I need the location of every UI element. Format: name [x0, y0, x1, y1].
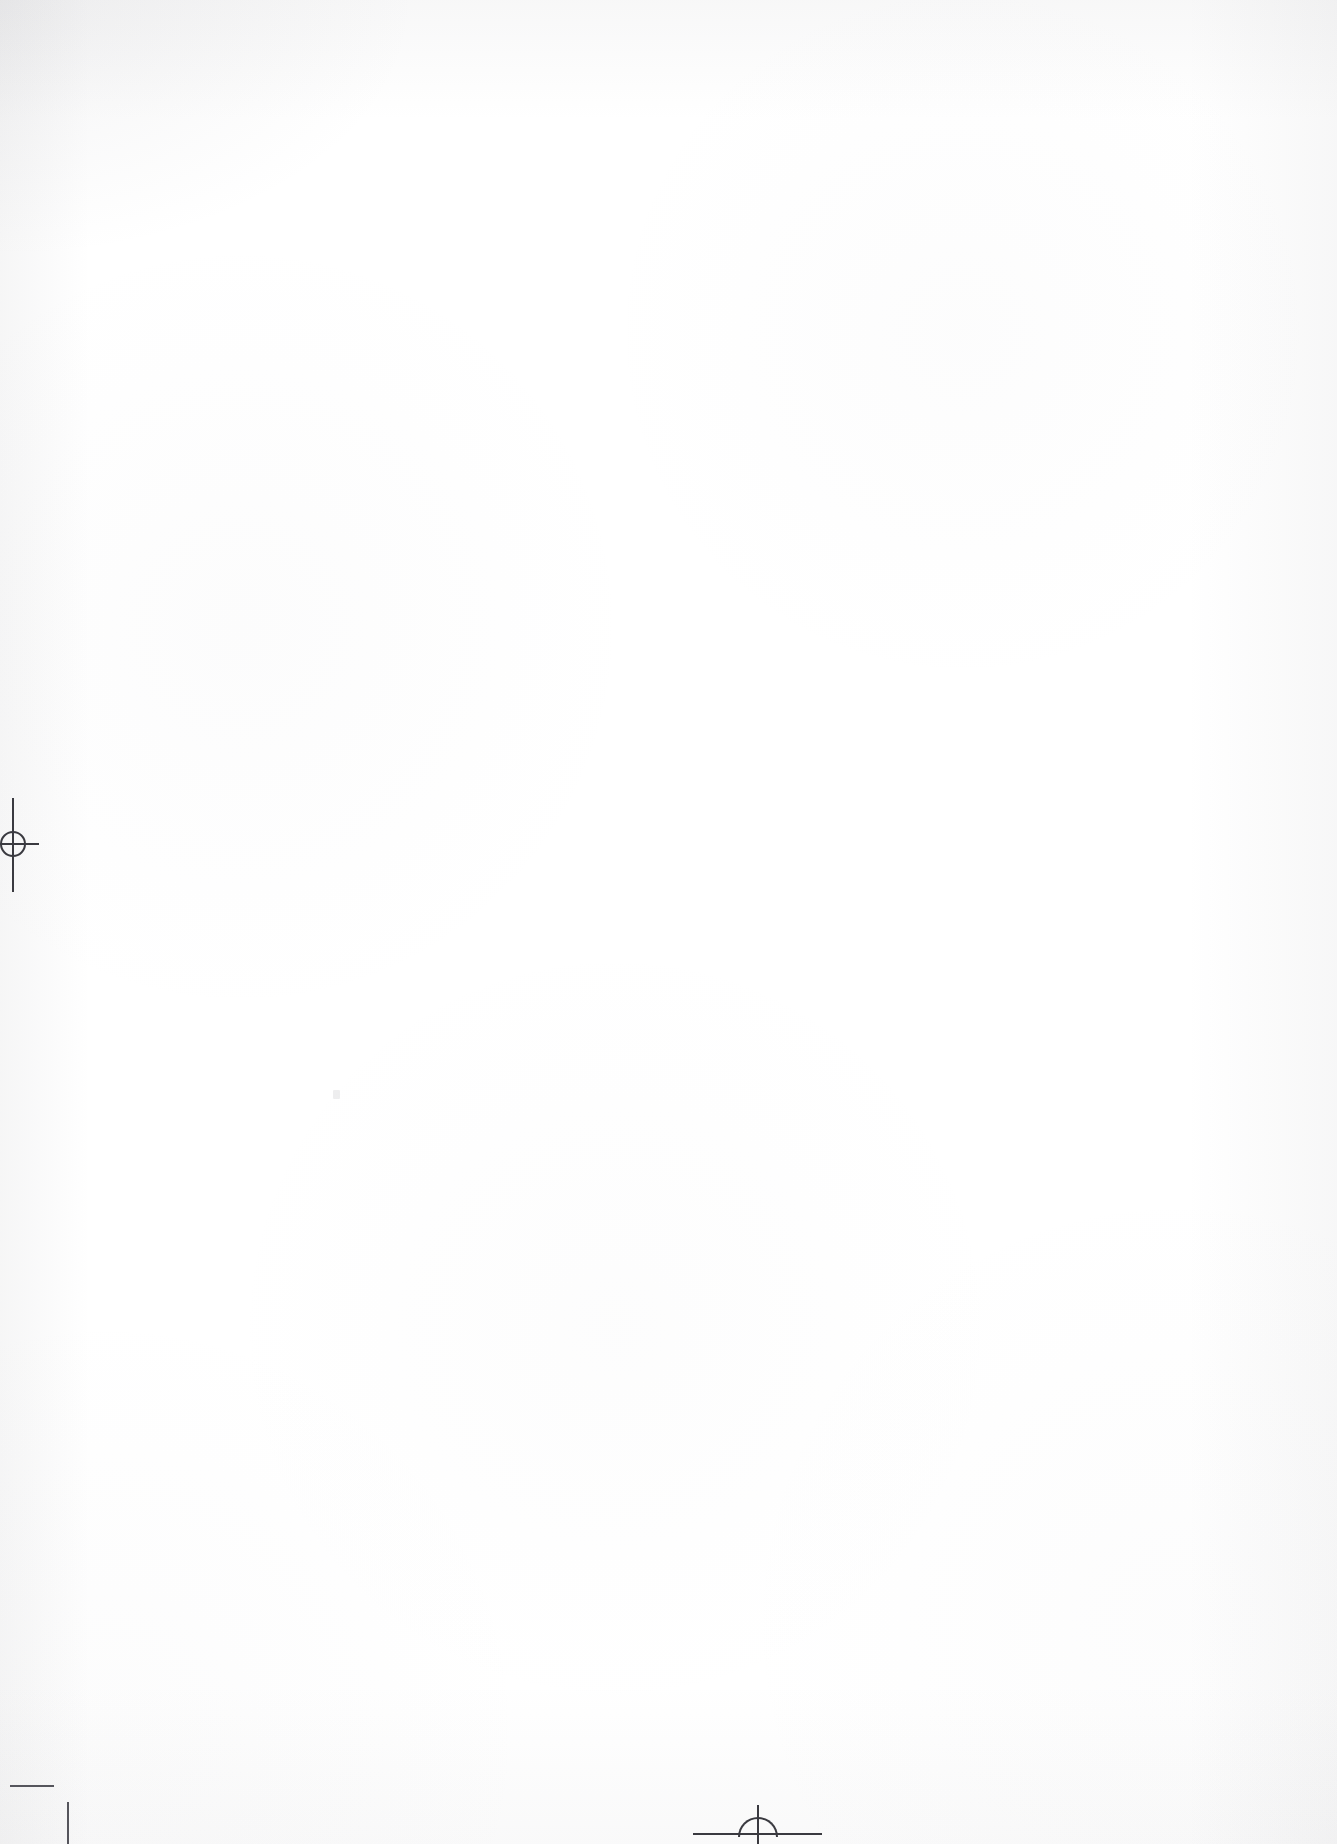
scan-shading-left-edge [0, 0, 90, 1844]
registration-mark-icon-left [0, 792, 48, 896]
scan-speck [333, 1090, 340, 1099]
crop-mark-icon-bottom-left [10, 1782, 100, 1844]
scan-shading-right-edge [1187, 0, 1337, 1844]
scan-shading-bottom-edge [0, 1684, 1337, 1844]
crop-mark-vertical-segment [67, 1802, 69, 1844]
registration-mark-circle [0, 831, 26, 857]
registration-mark-vertical-tick [757, 1805, 759, 1844]
crop-mark-horizontal-segment [10, 1785, 54, 1787]
registration-mark-icon-bottom [693, 1800, 825, 1844]
scanned-page [0, 0, 1337, 1844]
scan-shading-top-left-corner [0, 0, 420, 260]
scan-shading-top-edge [0, 0, 1337, 120]
paper-grain-texture [0, 0, 1337, 1844]
